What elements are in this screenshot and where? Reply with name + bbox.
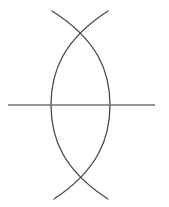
geometric-figure: Vesica piscis geometric construction xyxy=(0,0,169,207)
figure-background xyxy=(0,0,169,207)
figure-canvas: Vesica piscis geometric construction xyxy=(0,0,169,207)
